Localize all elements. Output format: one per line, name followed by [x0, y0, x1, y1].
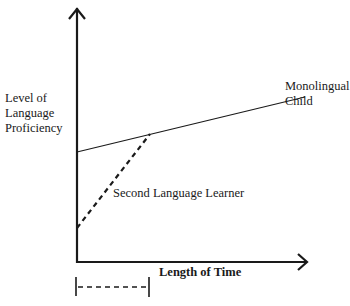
monolingual-child-label: Monolingual Child	[285, 79, 350, 109]
y-axis-label: Level of Language Proficiency	[5, 91, 63, 136]
x-axis-label: Length of Time	[159, 265, 241, 280]
monolingual-child-label-line-1: Monolingual	[285, 79, 350, 94]
monolingual-child-label-line-2: Child	[285, 94, 350, 109]
second-language-learner-label: Second Language Learner	[113, 186, 244, 201]
monolingual-child-line	[77, 97, 305, 152]
diagram-canvas	[0, 0, 350, 306]
y-axis-label-line-2: Language	[5, 106, 63, 121]
second-language-learner-line	[77, 134, 150, 228]
y-axis-label-line-3: Proficiency	[5, 121, 63, 136]
y-axis-label-line-1: Level of	[5, 91, 63, 106]
